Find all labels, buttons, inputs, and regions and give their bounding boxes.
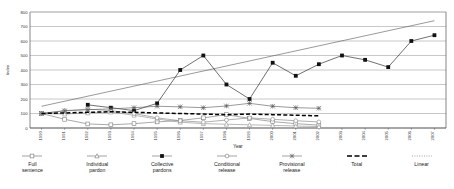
svg-text:2005: 2005: [384, 131, 389, 141]
legend-item-collective-pardons[interactable]: Collective pardons: [130, 152, 195, 174]
legend-label: Provisional release: [259, 161, 324, 174]
legend-item-total[interactable]: Total: [324, 152, 389, 167]
legend-label: Conditional release: [195, 161, 260, 174]
svg-text:2006: 2006: [407, 131, 412, 141]
svg-text:600: 600: [21, 39, 29, 44]
linear-trendline: [42, 21, 435, 107]
svg-text:2000: 2000: [269, 131, 274, 141]
svg-text:1999: 1999: [246, 131, 251, 141]
series-collective-pardons: [86, 33, 436, 112]
svg-text:1997: 1997: [199, 131, 204, 141]
svg-text:0: 0: [25, 126, 28, 131]
gridlines: [30, 12, 446, 128]
open-square-icon: [0, 152, 65, 160]
svg-text:2004: 2004: [361, 131, 366, 141]
dashed-icon: [324, 152, 389, 160]
svg-text:1994: 1994: [130, 131, 135, 141]
legend-item-individual-pardon[interactable]: Individual pardon: [65, 152, 130, 174]
svg-text:1995: 1995: [153, 131, 158, 141]
open-triangle-icon: [65, 152, 130, 160]
svg-text:1992: 1992: [84, 131, 89, 141]
legend-label: Collective pardons: [130, 161, 195, 174]
svg-text:200: 200: [21, 97, 29, 102]
legend-label: Full sentence: [0, 161, 65, 174]
svg-text:400: 400: [21, 68, 29, 73]
x-axis-tick-labels: 1990199119921993199419951996199719981999…: [38, 131, 436, 141]
svg-text:500: 500: [21, 53, 29, 58]
svg-text:1998: 1998: [222, 131, 227, 141]
legend-label: Individual pardon: [65, 161, 130, 174]
svg-text:1993: 1993: [107, 131, 112, 141]
legend-item-linear[interactable]: Linear: [389, 152, 454, 167]
svg-text:2003: 2003: [338, 131, 343, 141]
svg-text:300: 300: [21, 82, 29, 87]
svg-text:800: 800: [21, 10, 29, 15]
filled-square-icon: [130, 152, 195, 160]
star-x-icon: [259, 152, 324, 160]
svg-text:2007: 2007: [430, 131, 435, 141]
open-circle-icon: [195, 152, 260, 160]
legend-item-full-sentence[interactable]: Full sentence: [0, 152, 65, 174]
svg-text:100: 100: [21, 111, 29, 116]
svg-text:2002: 2002: [315, 131, 320, 141]
y-axis-title: Index: [5, 64, 10, 75]
svg-text:2001: 2001: [292, 131, 297, 141]
svg-text:1991: 1991: [61, 131, 66, 141]
chart-container: 0100200300400500600700800 19901991199219…: [0, 0, 454, 189]
legend-item-conditional-release[interactable]: Conditional release: [195, 152, 260, 174]
dotted-icon: [389, 152, 454, 160]
legend-label: Total: [324, 161, 389, 167]
y-axis-tick-labels: 0100200300400500600700800: [21, 10, 29, 131]
svg-text:700: 700: [21, 24, 29, 29]
legend-item-provisional-release[interactable]: Provisional release: [259, 152, 324, 174]
series-total: [42, 112, 319, 116]
legend-label: Linear: [389, 161, 454, 167]
data-series-group: [39, 33, 436, 128]
chart-legend: Full sentenceIndividual pardonCollective…: [0, 152, 454, 189]
svg-text:1990: 1990: [38, 131, 43, 141]
svg-text:1996: 1996: [176, 131, 181, 141]
x-axis-title: Year: [233, 144, 243, 149]
